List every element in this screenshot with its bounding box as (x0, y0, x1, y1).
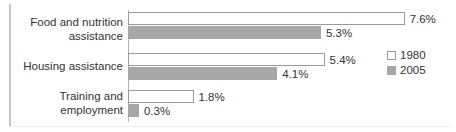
legend-item-2005: 2005 (387, 63, 426, 78)
legend-swatch-2005-icon (387, 66, 396, 75)
legend-label-1980: 1980 (400, 49, 426, 62)
bar-value-training-and-employment-1980: 1.8% (199, 91, 225, 104)
category-label-housing-assistance: Housing assistance (11, 60, 123, 74)
bar-housing-assistance-1980 (128, 53, 325, 66)
bar-housing-assistance-2005 (128, 67, 277, 80)
bar-food-and-nutrition-assistance-2005 (128, 26, 321, 39)
bar-training-and-employment-2005 (128, 104, 139, 117)
bar-value-training-and-employment-2005: 0.3% (144, 105, 170, 118)
bar-value-food-and-nutrition-assistance-2005: 5.3% (326, 27, 352, 40)
category-label-training-and-employment: Training and employment (11, 90, 123, 117)
bar-training-and-employment-1980 (128, 90, 194, 103)
legend-item-1980: 1980 (387, 48, 426, 63)
category-label-food-and-nutrition-assistance: Food and nutrition assistance (11, 16, 123, 43)
bar-value-food-and-nutrition-assistance-1980: 7.6% (410, 13, 436, 26)
bar-value-housing-assistance-2005: 4.1% (282, 68, 308, 81)
legend-swatch-1980-icon (387, 51, 396, 60)
bar-food-and-nutrition-assistance-1980 (128, 12, 405, 25)
bar-chart: Food and nutrition assistance 7.6% 5.3% … (0, 0, 456, 132)
bottom-border-rule (10, 126, 450, 127)
chart-legend: 1980 2005 (387, 48, 426, 78)
bar-value-housing-assistance-1980: 5.4% (330, 54, 356, 67)
legend-label-2005: 2005 (400, 64, 426, 77)
